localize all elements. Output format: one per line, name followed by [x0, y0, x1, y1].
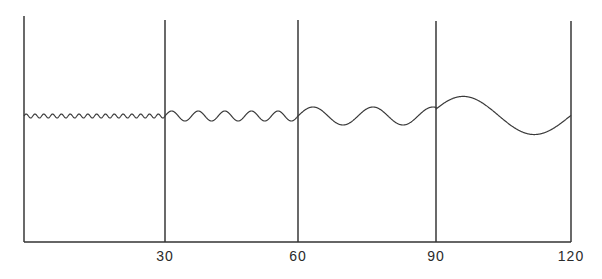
x-tick-label-30: 30 [156, 248, 174, 264]
x-tick-labels: 306090120 [156, 248, 584, 264]
segment-dividers [24, 16, 571, 242]
x-tick-label-120: 120 [558, 248, 584, 264]
x-tick-label-60: 60 [289, 248, 307, 264]
x-tick-label-90: 90 [427, 248, 445, 264]
wave-diagram: 306090120 [0, 0, 602, 279]
